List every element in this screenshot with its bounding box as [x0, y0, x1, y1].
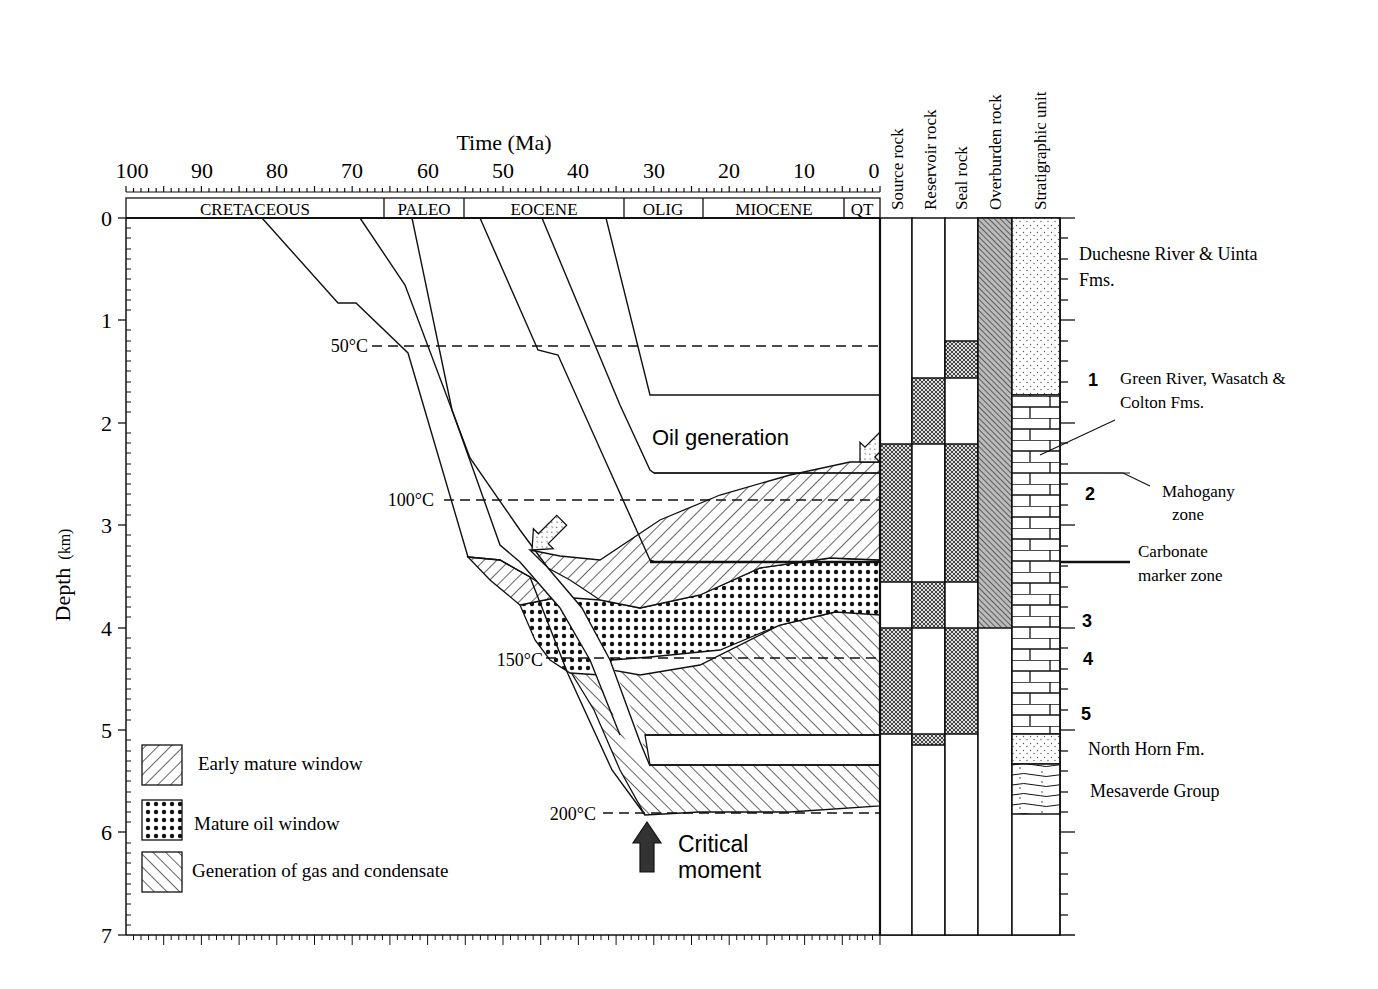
period-olig: OLIG: [643, 200, 684, 219]
svg-text:50: 50: [492, 158, 514, 183]
svg-text:60: 60: [417, 158, 439, 183]
burial-curve-eocene-3: [606, 218, 880, 395]
unit-duchesne: Duchesne River & Uinta: [1079, 244, 1257, 264]
burial-curve-cretaceous-1: [262, 218, 645, 815]
header-stratigraphic-unit: Stratigraphic unit: [1031, 91, 1050, 210]
migration-arrow-icon: [522, 510, 571, 559]
svg-text:3: 3: [1082, 611, 1092, 631]
unit-mesaverde: Mesaverde Group: [1090, 781, 1219, 801]
depth-axis: 0 1 2 3 4 5 6 7: [101, 206, 131, 948]
svg-text:7: 7: [101, 923, 112, 948]
svg-text:5: 5: [1081, 704, 1091, 724]
time-axis-top: [126, 186, 880, 192]
time-axis-title: Time (Ma): [456, 130, 551, 155]
unit-carbonate-marker: Carbonate: [1138, 542, 1208, 561]
time-tick-labels: 100 90 80 70 60 50 40 30 20 10 0: [116, 158, 880, 183]
svg-text:2: 2: [1085, 484, 1095, 504]
svg-text:marker zone: marker zone: [1138, 566, 1222, 585]
header-overburden-rock: Overburden rock: [986, 94, 1005, 210]
column-headers: Source rock Reservoir rock Seal rock Ove…: [888, 91, 1050, 210]
period-qt: QT: [851, 200, 874, 219]
svg-text:70: 70: [341, 158, 363, 183]
maturity-zones: [468, 462, 880, 815]
svg-text:150°C: 150°C: [497, 650, 543, 670]
svg-text:50°C: 50°C: [331, 336, 368, 356]
svg-text:Fms.: Fms.: [1079, 270, 1115, 290]
legend-swatch-gas: [142, 852, 182, 892]
svg-text:2: 2: [101, 411, 112, 436]
svg-text:Colton Fms.: Colton Fms.: [1120, 393, 1204, 412]
svg-text:100°C: 100°C: [388, 490, 434, 510]
svg-text:80: 80: [266, 158, 288, 183]
legend-label-mature: Mature oil window: [194, 813, 340, 834]
burial-history-diagram: Time (Ma) Depth(km) 100 90 80 70 60 50 4…: [0, 0, 1378, 989]
svg-text:20: 20: [718, 158, 740, 183]
oil-generation-label: Oil generation: [652, 425, 789, 450]
unit-green-river: Green River, Wasatch &: [1120, 369, 1286, 388]
time-axis-bottom: [126, 935, 1075, 945]
svg-text:3: 3: [101, 513, 112, 538]
header-seal-rock: Seal rock: [952, 146, 971, 210]
critical-moment-label-2: moment: [678, 857, 762, 883]
svg-text:5: 5: [101, 718, 112, 743]
unit-north-horn: North Horn Fm.: [1088, 739, 1205, 759]
svg-text:zone: zone: [1172, 505, 1204, 524]
svg-text:0: 0: [869, 158, 880, 183]
petroleum-system-columns: [880, 218, 1060, 935]
svg-text:1: 1: [101, 308, 112, 333]
critical-moment-label-1: Critical: [678, 831, 748, 857]
geologic-periods-band: CRETACEOUS PALEO EOCENE OLIG MIOCENE QT: [126, 198, 880, 219]
svg-text:Depth(km): Depth(km): [50, 529, 75, 622]
header-source-rock: Source rock: [888, 128, 907, 210]
legend: Early mature window Mature oil window Ge…: [142, 745, 448, 892]
legend-swatch-mature: [142, 800, 182, 840]
svg-text:4: 4: [101, 616, 112, 641]
period-eocene: EOCENE: [510, 200, 577, 219]
svg-text:100: 100: [116, 158, 149, 183]
period-cretaceous: CRETACEOUS: [200, 200, 310, 219]
legend-label-gas: Generation of gas and condensate: [192, 860, 448, 881]
critical-moment-arrow-icon: [633, 822, 661, 872]
svg-text:6: 6: [101, 820, 112, 845]
depth-axis-title: Depth(km): [50, 529, 75, 622]
svg-text:30: 30: [643, 158, 665, 183]
svg-text:40: 40: [567, 158, 589, 183]
svg-text:90: 90: [191, 158, 213, 183]
legend-swatch-early: [142, 745, 182, 785]
header-reservoir-rock: Reservoir rock: [921, 109, 940, 210]
svg-text:1: 1: [1088, 370, 1098, 390]
stratigraphic-labels: Duchesne River & Uinta Fms. 1 Green Rive…: [1079, 244, 1286, 801]
svg-text:10: 10: [793, 158, 815, 183]
period-paleo: PALEO: [397, 200, 450, 219]
unit-mahogany: Mahogany: [1162, 482, 1235, 501]
svg-text:200°C: 200°C: [550, 804, 596, 824]
svg-text:0: 0: [101, 206, 112, 231]
svg-text:4: 4: [1083, 649, 1093, 669]
strat-depth-ticks: [1060, 218, 1075, 935]
legend-label-early: Early mature window: [198, 753, 363, 774]
period-miocene: MIOCENE: [735, 200, 812, 219]
